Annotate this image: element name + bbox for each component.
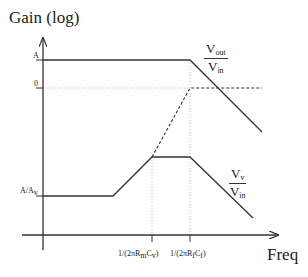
x-axis-label: Freq <box>267 246 298 263</box>
y-tick-label-a-av: A/Av <box>20 187 38 197</box>
x-tick-label-2: 1/(2πRfCf) <box>170 250 206 260</box>
vout-vin-label: Vout Vin <box>204 42 228 75</box>
y-tick-label-zero: 0 <box>34 80 38 88</box>
dashed-asymptote <box>152 88 262 157</box>
y-axis-label: Gain (log) <box>9 9 79 26</box>
x-tick-label-1: 1/(2πRmCv) <box>118 250 159 260</box>
bode-diagram <box>0 0 308 277</box>
vv-vin-label: Vv Vin <box>229 167 246 200</box>
vv-vin-curve <box>43 157 253 218</box>
vout-vin-curve <box>43 60 262 132</box>
y-tick-label-a: A <box>33 52 39 60</box>
guide-lines <box>43 60 190 235</box>
